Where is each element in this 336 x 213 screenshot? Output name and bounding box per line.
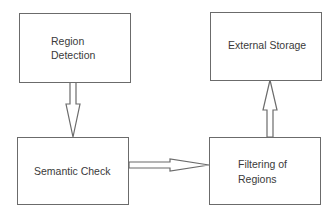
node-label-line: Regions	[238, 172, 277, 186]
node-label-line: Semantic Check	[34, 164, 110, 178]
arrow-down-icon	[66, 81, 80, 137]
node-external-storage: External Storage	[210, 12, 322, 81]
node-filtering-of-regions: Filtering of Regions	[209, 137, 321, 205]
node-label-line: Detection	[51, 48, 95, 62]
node-semantic-check: Semantic Check	[17, 137, 129, 205]
node-region-detection: Region Detection	[19, 13, 131, 83]
arrow-up-icon	[263, 80, 277, 137]
node-label-line: Region	[51, 34, 84, 48]
node-label-line: External Storage	[228, 38, 306, 52]
node-label-line: Filtering of	[238, 157, 287, 171]
arrow-right-icon	[129, 159, 209, 171]
